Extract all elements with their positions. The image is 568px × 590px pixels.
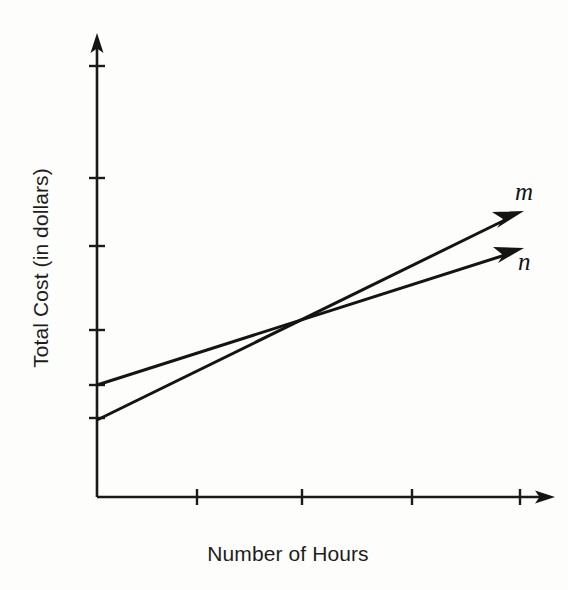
x-axis-title: Number of Hours	[207, 542, 368, 565]
figure-background	[0, 0, 568, 590]
y-axis-title: Total Cost (in dollars)	[29, 168, 52, 368]
line-graph-figure: Total Cost (in dollars) Number of Hours …	[0, 0, 568, 590]
line-m-label: m	[515, 178, 533, 205]
line-n-label: n	[518, 248, 531, 275]
